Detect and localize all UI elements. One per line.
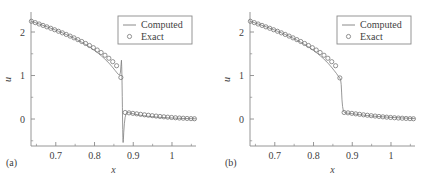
plot-panel-b: ComputedExact 0.70.80.91012xu (b) (219, 0, 438, 179)
y-tick-label: 0 (239, 114, 244, 125)
panel-tag-b: (b) (225, 157, 237, 168)
legend-label-computed: Computed (360, 19, 402, 30)
x-tick-label: 1 (388, 150, 393, 161)
plot-legend-a: ComputedExact (118, 16, 192, 44)
x-tick-label: 1 (169, 150, 174, 161)
series-exact-marker (330, 60, 334, 64)
x-tick-label: 0.8 (88, 150, 101, 161)
y-tick-label: 0 (20, 114, 25, 125)
series-exact-marker (95, 48, 99, 52)
legend-label-computed: Computed (141, 19, 183, 30)
plot-legend-b: ComputedExact (337, 16, 411, 44)
plot-svg-a: ComputedExact 0.70.80.91012xu (0, 0, 219, 179)
figure-container: ComputedExact 0.70.80.91012xu (a) Comput… (0, 0, 438, 179)
x-axis-title: x (329, 164, 335, 175)
series-exact-marker (314, 48, 318, 52)
series-exact-marker (99, 50, 103, 54)
x-axis-title: x (110, 164, 116, 175)
series-exact-marker (107, 56, 111, 60)
x-tick-label: 0.7 (269, 150, 282, 161)
plot-panel-a: ComputedExact 0.70.80.91012xu (a) (0, 0, 219, 179)
plot-svg-b: ComputedExact 0.70.80.91012xu (219, 0, 438, 179)
series-exact-marker (334, 64, 338, 68)
legend-label-exact: Exact (141, 31, 164, 42)
series-exact-marker (326, 56, 330, 60)
series-exact-marker (111, 60, 115, 64)
plot-labels-a: 0.70.80.91012xu (2, 27, 174, 175)
series-exact-marker (322, 53, 326, 57)
series-exact-marker (318, 50, 322, 54)
y-tick-label: 2 (239, 27, 244, 38)
x-tick-label: 0.9 (346, 150, 359, 161)
y-axis-title: u (221, 77, 232, 82)
x-tick-label: 0.8 (307, 150, 320, 161)
plot-labels-b: 0.70.80.91012xu (221, 27, 393, 175)
y-tick-label: 1 (239, 70, 244, 81)
y-tick-label: 2 (20, 27, 25, 38)
x-tick-label: 0.9 (127, 150, 140, 161)
y-tick-label: 1 (20, 70, 25, 81)
series-exact-marker (103, 53, 107, 57)
series-exact-marker (115, 64, 119, 68)
x-tick-label: 0.7 (50, 150, 63, 161)
legend-label-exact: Exact (360, 31, 383, 42)
y-axis-title: u (2, 77, 13, 82)
panel-tag-a: (a) (6, 157, 17, 168)
